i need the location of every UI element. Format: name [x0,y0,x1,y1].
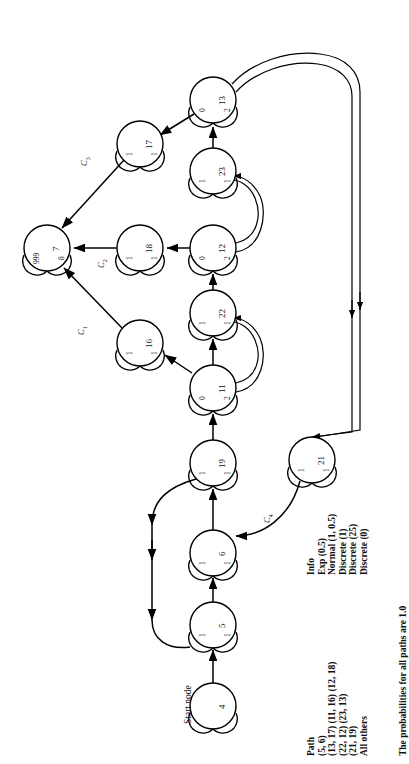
edge-label-c4: C4 [262,514,274,523]
node-7-id: 7 [51,246,61,251]
edge-label-subscript: 3 [85,157,91,160]
path-cell-3: (22, 12) (23, 13) [338,693,349,756]
node-19-right-value: 1 [223,471,232,475]
node-23-id: 23 [217,167,227,176]
node-circle [117,121,163,167]
edge-label-subscript: 1 [82,326,88,329]
node-11-id: 11 [217,385,227,394]
node-22-id: 22 [217,309,227,318]
edge-17-7 [62,160,124,228]
path-column-header: Path [306,737,317,756]
edge-13-21-inner [236,63,352,437]
node-22 [189,290,238,340]
node-circle [190,77,236,123]
node-circle [117,225,163,271]
node-13-left-value: 0 [198,108,207,112]
path-cell-2: (13, 17) (11, 16) (12, 18) [327,662,338,756]
node-16-id: 16 [144,339,154,348]
edge-label-subscript: 4 [268,514,274,517]
node-circle [190,225,236,271]
node-13-id: 13 [217,96,227,105]
node-11-right-value: 2 [223,396,232,400]
figure-caption: The probabilities for all paths are 1.0 [398,606,408,756]
node-7-left-value: 999 [32,253,41,264]
node-12-left-value: 0 [198,256,207,260]
node-17-left-value: 1 [125,152,134,156]
edge-label-c1: C1 [76,326,88,335]
edge-label-base: C [79,160,89,166]
nodes-layer [23,77,337,733]
node-6-id: 6 [217,551,227,556]
edge-11-16 [165,355,192,373]
node-18-left-value: 1 [125,256,134,260]
node-16 [116,320,165,370]
node-11 [189,365,238,415]
path-cell-4: (21, 19) [348,726,359,756]
node-circle [190,440,236,486]
node-circle [117,320,163,366]
figure-canvas: 4511611191121111102161122117999818111202… [0,0,409,764]
node-18-right-value: 1 [150,256,159,260]
node-4 [189,683,238,733]
edge-label-subscript: 2 [102,259,108,262]
node-5-left-value: 1 [198,633,207,637]
edge-label-base: C [262,517,272,523]
node-23 [189,148,238,198]
node-11-left-value: 0 [198,396,207,400]
path-cell-5: All others [359,716,370,756]
node-18-id: 18 [144,244,154,253]
diagram-svg [0,0,409,764]
node-22-left-value: 1 [198,321,207,325]
node-5 [189,602,238,652]
node-19 [189,440,238,490]
edge-21-6 [236,481,300,536]
node-17-id: 17 [144,140,154,149]
node-circle [190,530,236,576]
info-cell-4: Discrete (25) [348,524,359,575]
node-5-id: 5 [217,623,227,628]
info-cell-2: Normal (1, 0.5) [327,514,338,575]
info-cell-5: Discrete (0) [359,528,370,575]
edge-label-base: C [96,262,106,268]
node-circle [190,683,236,729]
node-circle [289,437,335,483]
node-16-right-value: 1 [150,351,159,355]
node-19-left-value: 1 [198,471,207,475]
node-circle [190,290,236,336]
node-23-left-value: 1 [198,179,207,183]
edge-label-c2: C2 [96,259,108,268]
edge-label-c3: C3 [79,157,91,166]
node-7 [23,225,72,275]
node-5-right-value: 1 [223,633,232,637]
node-12-id: 12 [217,244,227,253]
path-cell-1: (5, 6) [317,735,328,756]
node-17 [116,121,165,171]
node-4-id: 4 [217,704,227,709]
node-21-id: 21 [316,456,326,465]
node-23-right-value: 1 [223,179,232,183]
node-12-right-value: 2 [223,256,232,260]
node-6-left-value: 1 [198,561,207,565]
node-circle [190,602,236,648]
node-circle [24,225,70,271]
node-7-right-value: 8 [57,256,66,260]
start-node-label: Start node [183,685,193,724]
node-12 [189,225,238,275]
node-16-left-value: 1 [125,351,134,355]
info-cell-3: Discrete (1) [338,528,349,575]
node-21-right-value: 1 [322,468,331,472]
node-13 [189,77,238,127]
node-21 [288,437,337,487]
node-21-left-value: 1 [297,468,306,472]
node-circle [190,148,236,194]
edge-16-7 [64,268,122,328]
node-circle [190,365,236,411]
node-17-right-value: 1 [150,152,159,156]
info-cell-1: Exp (0.5) [317,538,328,575]
node-19-id: 19 [217,459,227,468]
node-22-right-value: 1 [223,321,232,325]
node-18 [116,225,165,275]
info-column-header: Info [306,558,317,575]
node-6-right-value: 1 [223,561,232,565]
node-6 [189,530,238,580]
